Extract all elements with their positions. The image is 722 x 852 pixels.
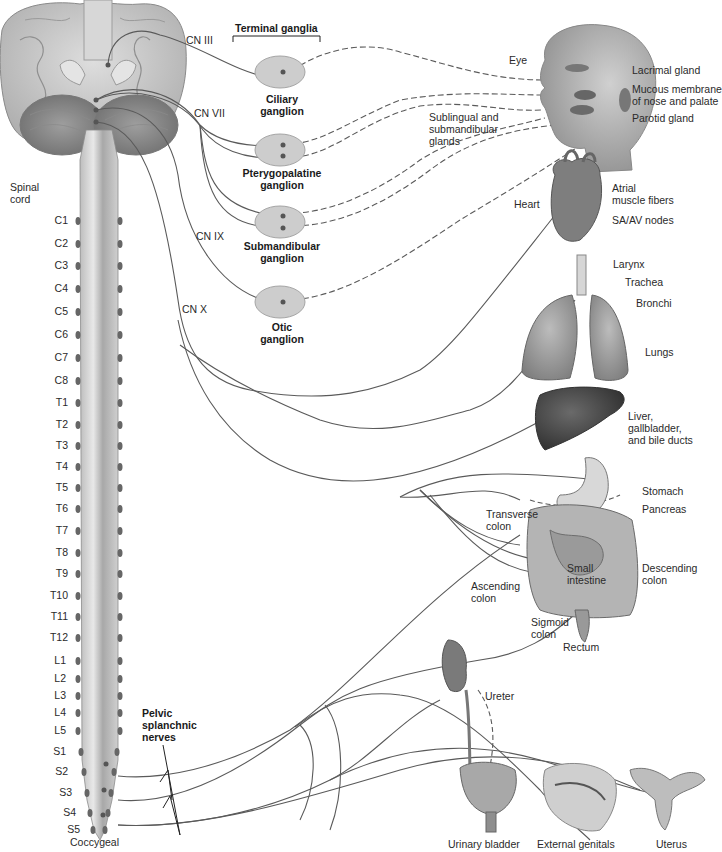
liver-label: Liver, gallbladder, and bile ducts <box>628 410 693 446</box>
sigmoid-colon-label: Sigmoid colon <box>531 616 569 640</box>
segment-label-c7: C7 <box>38 351 68 363</box>
bladder-illustration <box>460 762 516 832</box>
larynx-label: Larynx <box>613 258 645 270</box>
segment-label-s1: S1 <box>36 745 66 757</box>
lungs-illustration <box>522 255 628 380</box>
segment-label-s4: S4 <box>46 806 76 818</box>
segment-label-c1: C1 <box>38 214 68 226</box>
atrial-muscle-label: Atrial muscle fibers <box>612 182 674 206</box>
segment-label-l2: L2 <box>36 672 66 684</box>
rectum-label: Rectum <box>563 641 599 653</box>
descending-colon-label: Descending colon <box>642 562 697 586</box>
segment-label-t6: T6 <box>38 502 68 514</box>
external-genitals-label: External genitals <box>537 838 615 850</box>
stomach-label: Stomach <box>642 485 683 497</box>
segment-label-c2: C2 <box>38 237 68 249</box>
lungs-label: Lungs <box>645 346 674 358</box>
segment-label-t1: T1 <box>38 396 68 408</box>
eye-label: Eye <box>509 54 527 66</box>
segment-label-t2: T2 <box>38 418 68 430</box>
spinal-cord-label: Spinal cord <box>10 181 39 205</box>
transverse-colon-label: Transverse colon <box>486 508 538 532</box>
pelvic-splanchnic-nerves-label: Pelvic splanchnic nerves <box>142 707 197 743</box>
kidney-illustration <box>442 640 466 692</box>
heart-label: Heart <box>514 198 540 210</box>
ascending-colon-label: Ascending colon <box>471 580 520 604</box>
segment-label-l1: L1 <box>36 654 66 666</box>
segment-label-t9: T9 <box>38 567 68 579</box>
segment-label-t7: T7 <box>38 524 68 536</box>
segment-label-c4: C4 <box>38 282 68 294</box>
small-intestine-label: Small intestine <box>567 562 606 586</box>
segment-label-t8: T8 <box>38 546 68 558</box>
segment-label-t10: T10 <box>38 589 68 601</box>
urinary-bladder-label: Urinary bladder <box>448 838 520 850</box>
spinal-cord-illustration <box>76 130 123 840</box>
segment-label-c8: C8 <box>38 374 68 386</box>
genitals-illustration <box>543 763 616 831</box>
otic-ganglion-label: Otic ganglion <box>242 321 322 345</box>
coccygeal-label: Coccygeal <box>70 836 119 848</box>
ureter-label: Ureter <box>485 690 514 702</box>
pterygopalatine-ganglion-label: Pterygopalatine ganglion <box>232 167 332 191</box>
sublingual-glands-label: Sublingual and submandibular glands <box>429 111 498 147</box>
segment-label-t4: T4 <box>38 460 68 472</box>
cn-vii-label: CN VII <box>194 107 225 119</box>
cn-ix-label: CN IX <box>196 230 224 242</box>
ciliary-ganglion-label: Ciliary ganglion <box>242 93 322 117</box>
diagram-canvas: Terminal ganglia CN III CN VII CN IX CN … <box>0 0 722 852</box>
segment-label-c6: C6 <box>38 328 68 340</box>
segment-label-t5: T5 <box>38 481 68 493</box>
segment-label-c3: C3 <box>38 259 68 271</box>
cn-iii-label: CN III <box>186 34 213 46</box>
segment-label-l5: L5 <box>36 724 66 736</box>
segment-label-s2: S2 <box>38 765 68 777</box>
heart-illustration <box>551 151 601 242</box>
segment-label-l3: L3 <box>36 689 66 701</box>
terminal-ganglia-heading: Terminal ganglia <box>235 22 318 34</box>
sa-av-nodes-label: SA/AV nodes <box>612 214 674 226</box>
segment-label-t3: T3 <box>38 439 68 451</box>
trachea-label: Trachea <box>625 276 663 288</box>
cn-x-label: CN X <box>182 303 207 315</box>
segment-label-c5: C5 <box>38 305 68 317</box>
segment-label-l4: L4 <box>36 706 66 718</box>
segment-label-t12: T12 <box>38 631 68 643</box>
uterus-illustration <box>630 768 705 830</box>
segment-label-s5: S5 <box>50 823 80 835</box>
liver-illustration <box>535 387 624 450</box>
segment-label-s3: S3 <box>42 786 72 798</box>
segment-label-t11: T11 <box>38 610 68 622</box>
parotid-gland-label: Parotid gland <box>632 112 694 124</box>
submandibular-ganglion-label: Submandibular ganglion <box>232 240 332 264</box>
uterus-label: Uterus <box>656 838 687 850</box>
mucous-membrane-label: Mucous membrane of nose and palate <box>632 83 722 107</box>
pancreas-label: Pancreas <box>642 503 686 515</box>
lacrimal-gland-label: Lacrimal gland <box>632 64 700 76</box>
digestive-illustration <box>527 458 638 642</box>
bronchi-label: Bronchi <box>636 297 672 309</box>
